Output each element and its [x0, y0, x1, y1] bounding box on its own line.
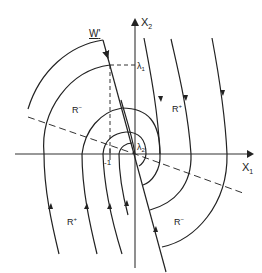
x2-label: X2: [141, 16, 152, 30]
switching-line-label: W': [89, 28, 100, 39]
trajectory-upper-3: [212, 38, 227, 154]
x2-axis-arrow-icon: [131, 18, 139, 26]
tick-label: -1: [104, 158, 112, 167]
trajectory-arc-4-right: [139, 154, 146, 166]
trajectory-arc-5-left: [119, 143, 132, 154]
trajectory-lower-2: [82, 154, 97, 254]
region-label-upper-right: R+: [172, 103, 183, 114]
trajectory-arc-outer-right: [162, 154, 227, 247]
region-label-lower-left: R+: [67, 216, 78, 227]
trajectory-arc-4-left: [103, 132, 126, 154]
x1-label: X1: [242, 161, 253, 175]
lambda1-label: λ1: [137, 61, 146, 72]
region-label-lower-right: R−: [174, 216, 185, 227]
trajectory-arc-outer-left: [28, 40, 103, 109]
phase-plane-diagram: -1 X1 X2 W' λ1 λ2 R− R+ R+ R−: [0, 0, 262, 273]
trajectory-arc-2-right: [150, 154, 191, 210]
arrow-down-icon: [158, 96, 163, 102]
trajectory-lower-1: [44, 154, 59, 254]
trajectory-upper-1: [144, 38, 160, 154]
x1-axis-arrow-icon: [247, 150, 254, 158]
trajectory-upper-2: [171, 39, 191, 154]
region-label-upper-left: R−: [72, 104, 83, 115]
